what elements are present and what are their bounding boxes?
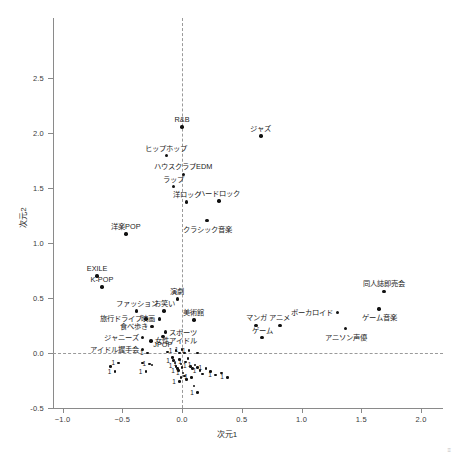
cluster-data-point xyxy=(117,362,120,365)
cluster-count-label: 1 xyxy=(140,350,144,356)
cluster-data-point xyxy=(205,367,208,370)
data-point-label: ファッション xyxy=(116,300,158,307)
x-axis-tick xyxy=(421,408,422,413)
cluster-count-label: 1 xyxy=(184,374,188,380)
data-point xyxy=(278,324,281,327)
data-point-label: スポーツ xyxy=(169,329,197,336)
x-axis-tick-label: 1.5 xyxy=(341,415,381,424)
y-axis-tick-label: 2.0 xyxy=(14,129,44,138)
x-axis-tick xyxy=(302,408,303,413)
y-axis-tick xyxy=(48,133,53,134)
cluster-count-label: 1 xyxy=(111,360,115,366)
data-point-label: ラップ xyxy=(163,176,184,183)
x-axis-tick-label: 0.5 xyxy=(222,415,262,424)
data-point xyxy=(158,317,161,320)
data-point-label: EXILE xyxy=(87,265,108,272)
data-point xyxy=(124,232,127,235)
data-point xyxy=(192,318,195,321)
data-point xyxy=(149,339,152,342)
cluster-data-point xyxy=(171,356,174,359)
data-point-label: ハードロック xyxy=(198,190,240,197)
y-axis-tick xyxy=(48,243,53,244)
data-point xyxy=(100,285,103,288)
x-axis-tick xyxy=(182,408,183,413)
x-axis-spine xyxy=(53,408,443,409)
data-point-label: お笑い xyxy=(154,300,175,307)
data-point xyxy=(162,309,165,312)
x-axis-title: 次元1 xyxy=(0,428,454,439)
cluster-count-label: 1 xyxy=(208,372,212,378)
y-axis-tick-label: 0.0 xyxy=(14,349,44,358)
cluster-data-point xyxy=(193,385,196,388)
cluster-count-label: 1 xyxy=(142,361,146,367)
cluster-count-label: 1 xyxy=(199,365,203,371)
data-point xyxy=(176,297,179,300)
data-point-label: 同人誌即売会 xyxy=(363,280,405,287)
data-point xyxy=(260,336,263,339)
data-point-label: 洋楽POP xyxy=(111,223,140,230)
cluster-data-point xyxy=(190,376,193,379)
data-point-label: クラシック音楽 xyxy=(183,226,232,233)
data-point-label: ゲーム音楽 xyxy=(362,314,397,321)
x-axis-tick-label: 0.0 xyxy=(162,415,202,424)
y-axis-tick-label: 0.5 xyxy=(14,294,44,303)
cluster-count-label: 1 xyxy=(190,389,194,395)
data-point xyxy=(259,134,262,137)
cluster-count-label: 1 xyxy=(139,369,143,375)
cluster-data-point xyxy=(226,376,229,379)
cluster-data-point xyxy=(145,370,148,373)
data-point-label: ジャニーズ xyxy=(104,334,139,341)
cluster-data-point xyxy=(188,349,191,352)
data-point-label: K-POP xyxy=(91,276,114,283)
data-point-label: ボーカロイド xyxy=(291,309,333,316)
data-point-label: 洋ロック xyxy=(173,191,201,198)
y-axis-tick xyxy=(48,78,53,79)
y-axis-tick xyxy=(48,188,53,189)
data-point xyxy=(150,325,153,328)
y-axis-tick-label: -0.5 xyxy=(14,404,44,413)
y-axis-title: 次元2 xyxy=(17,188,28,248)
data-point-label: 食べ歩き xyxy=(120,323,148,330)
y-axis-tick xyxy=(48,408,53,409)
cluster-count-label: 1 xyxy=(178,359,182,365)
data-point-label: アニソン声優 xyxy=(325,334,367,341)
cluster-count-label: 1 xyxy=(169,348,173,354)
y-axis-tick xyxy=(48,353,53,354)
cluster-data-point xyxy=(151,364,154,367)
data-point-label: アイドル握手会 xyxy=(90,346,139,353)
cluster-count-label: 1 xyxy=(188,362,192,368)
data-point xyxy=(141,336,144,339)
scatter-plot-figure: −1.0−0.50.00.51.01.52.0-0.50.00.51.01.52… xyxy=(0,0,454,454)
data-point xyxy=(344,327,347,330)
data-point-label: 女性アイドル xyxy=(155,337,197,344)
cluster-count-label: 1 xyxy=(176,370,180,376)
corner-watermark: ≡ xyxy=(447,447,451,453)
x-axis-tick xyxy=(63,408,64,413)
data-point xyxy=(377,307,380,310)
data-point xyxy=(205,219,208,222)
data-point-label: 美術館 xyxy=(183,309,204,316)
data-point xyxy=(135,309,138,312)
x-axis-tick-label: 2.0 xyxy=(401,415,441,424)
data-point xyxy=(180,125,183,128)
x-axis-tick xyxy=(122,408,123,413)
data-point xyxy=(164,330,167,333)
y-axis-spine xyxy=(53,18,54,408)
cluster-data-point xyxy=(146,352,149,355)
cluster-count-label: 1 xyxy=(183,363,187,369)
cluster-data-point xyxy=(187,357,190,360)
y-axis-tick xyxy=(48,298,53,299)
x-axis-tick xyxy=(242,408,243,413)
data-point-label: アニメ xyxy=(269,314,290,321)
cluster-data-point xyxy=(114,370,117,373)
x-axis-tick-label: −1.0 xyxy=(43,415,83,424)
x-axis-tick-label: 1.0 xyxy=(282,415,322,424)
data-point xyxy=(217,199,220,202)
y-axis-tick-label: 2.5 xyxy=(14,74,44,83)
data-point-label: ヒップホップ xyxy=(145,145,187,152)
cluster-count-label: 1 xyxy=(193,367,197,373)
data-point xyxy=(185,200,188,203)
data-point xyxy=(172,185,175,188)
data-point-label: ハウスクラブEDM xyxy=(154,163,212,170)
cluster-data-point xyxy=(178,380,181,383)
